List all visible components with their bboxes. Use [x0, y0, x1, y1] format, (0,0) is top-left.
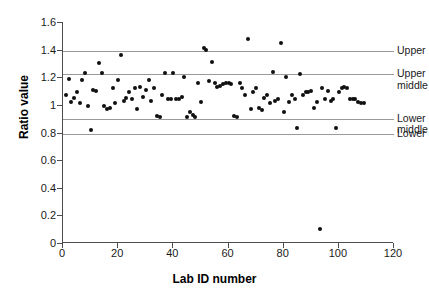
- data-point: [271, 70, 275, 74]
- data-point: [287, 100, 291, 104]
- data-point: [293, 97, 297, 101]
- x-axis-tick-label: 100: [318, 248, 358, 259]
- data-point: [86, 104, 90, 108]
- data-point: [320, 86, 324, 90]
- data-point: [240, 86, 244, 90]
- data-point: [309, 89, 313, 93]
- reference-line-label-upper-middle: Uppermiddle: [397, 68, 429, 91]
- y-axis-tick-label: 1.2: [30, 72, 56, 83]
- data-point: [75, 90, 79, 94]
- data-point: [133, 86, 137, 90]
- data-point: [276, 97, 280, 101]
- data-point: [89, 128, 93, 132]
- x-axis-title: Lab ID number: [0, 272, 429, 286]
- data-point: [331, 97, 335, 101]
- y-axis-title: Ratio value: [17, 47, 31, 167]
- x-axis-tick-label: 40: [152, 248, 192, 259]
- data-point: [97, 61, 101, 65]
- y-axis-tick-label: 0.8: [30, 128, 56, 139]
- data-point: [199, 100, 203, 104]
- y-axis-tick-mark: [57, 215, 62, 216]
- reference-line-label-upper: Upper: [397, 45, 429, 57]
- data-point: [337, 90, 341, 94]
- data-point: [138, 85, 142, 89]
- data-point: [315, 100, 319, 104]
- data-point: [249, 107, 253, 111]
- data-point: [111, 86, 115, 90]
- y-axis-tick-label: 0.2: [30, 210, 56, 221]
- data-point: [210, 60, 214, 64]
- data-point: [243, 93, 247, 97]
- data-point: [323, 97, 327, 101]
- y-axis-tick-label: 1: [30, 100, 56, 111]
- plot-area: [62, 22, 393, 243]
- data-point: [72, 96, 76, 100]
- data-point: [160, 93, 164, 97]
- y-axis-tick-label: 0.4: [30, 183, 56, 194]
- data-point: [238, 81, 242, 85]
- data-point: [80, 78, 84, 82]
- data-point: [229, 82, 233, 86]
- y-axis-tick-mark: [57, 50, 62, 51]
- x-axis-tick-label: 60: [208, 248, 248, 259]
- data-point: [268, 101, 272, 105]
- data-point: [147, 78, 151, 82]
- data-point: [196, 81, 200, 85]
- data-point: [279, 41, 283, 45]
- data-point: [135, 107, 139, 111]
- data-point: [260, 108, 264, 112]
- data-point: [334, 126, 338, 130]
- y-axis-tick-label: 1.4: [30, 45, 56, 56]
- data-point: [282, 110, 286, 114]
- reference-line-label-part: middle: [397, 79, 428, 91]
- reference-line-label-part: Lower: [397, 127, 426, 139]
- data-point: [362, 101, 366, 105]
- y-axis-tick-mark: [57, 77, 62, 78]
- data-point: [284, 75, 288, 79]
- data-point: [251, 90, 255, 94]
- data-point: [254, 86, 258, 90]
- data-point: [326, 89, 330, 93]
- data-point: [295, 126, 299, 130]
- y-axis-tick-mark: [57, 105, 62, 106]
- x-axis-tick-label: 0: [42, 248, 82, 259]
- y-axis-tick-mark: [57, 133, 62, 134]
- data-point: [141, 95, 145, 99]
- y-axis-tick-mark: [57, 22, 62, 23]
- data-point: [67, 77, 71, 81]
- data-point: [318, 227, 322, 231]
- x-axis-tick-label: 120: [373, 248, 413, 259]
- data-point: [246, 37, 250, 41]
- y-axis-tick-mark: [57, 188, 62, 189]
- data-point: [127, 90, 131, 94]
- data-point: [100, 71, 104, 75]
- reference-line-label-part: Lower: [397, 112, 426, 124]
- reference-line-upper: [63, 51, 394, 52]
- data-point: [182, 75, 186, 79]
- data-point: [108, 106, 112, 110]
- y-axis-tick-mark: [57, 160, 62, 161]
- data-point: [312, 106, 316, 110]
- data-point: [144, 88, 148, 92]
- x-axis-tick-label: 80: [263, 248, 303, 259]
- data-point: [116, 78, 120, 82]
- data-point: [113, 101, 117, 105]
- reference-line-label-part: Upper: [397, 44, 426, 56]
- data-point: [149, 99, 153, 103]
- y-axis-tick-label: 0.6: [30, 155, 56, 166]
- data-point: [169, 97, 173, 101]
- data-point: [78, 101, 82, 105]
- data-point: [298, 72, 302, 76]
- data-point: [119, 53, 123, 57]
- reference-line-label-lower: Lower: [397, 128, 429, 140]
- reference-line-upper-middle: [63, 74, 394, 75]
- data-point: [180, 95, 184, 99]
- data-point: [94, 89, 98, 93]
- reference-line-label-part: Upper: [397, 67, 426, 79]
- data-point: [124, 96, 128, 100]
- data-point: [207, 79, 211, 83]
- data-point: [158, 115, 162, 119]
- data-point: [265, 93, 269, 97]
- y-axis-tick-label: 1.6: [30, 17, 56, 28]
- data-point: [69, 100, 73, 104]
